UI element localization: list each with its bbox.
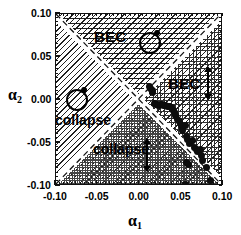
label-collapse-left: collapse xyxy=(55,113,111,127)
right-minor-tick xyxy=(219,60,222,61)
y-tick xyxy=(55,184,60,185)
top-minor-tick xyxy=(100,13,101,16)
x-tick-label: 0.05 xyxy=(170,190,190,202)
x-minor-tick xyxy=(80,182,81,185)
y-minor-tick xyxy=(55,163,58,164)
circle-cusp xyxy=(153,29,160,36)
y-minor-tick xyxy=(55,107,58,108)
right-minor-tick xyxy=(219,86,222,87)
y-minor-tick xyxy=(55,17,58,18)
top-minor-tick xyxy=(117,13,118,16)
right-minor-tick xyxy=(219,133,222,134)
top-minor-tick xyxy=(59,13,60,16)
y-minor-tick xyxy=(55,90,58,91)
y-minor-tick xyxy=(55,51,58,52)
top-minor-tick xyxy=(88,13,89,16)
right-minor-tick xyxy=(219,25,222,26)
top-minor-tick xyxy=(63,13,64,16)
right-minor-tick xyxy=(219,172,222,173)
right-minor-tick xyxy=(219,17,222,18)
circle-cusp xyxy=(80,86,87,93)
top-minor-tick xyxy=(188,13,189,16)
right-minor-tick xyxy=(219,21,222,22)
y-tick xyxy=(55,98,60,99)
right-minor-tick xyxy=(219,56,222,57)
x-minor-tick xyxy=(167,182,168,185)
x-axis-title: α1 xyxy=(128,212,142,231)
x-minor-tick xyxy=(67,182,68,185)
y-minor-tick xyxy=(55,81,58,82)
top-minor-tick xyxy=(96,13,97,16)
right-minor-tick xyxy=(219,34,222,35)
y-minor-tick xyxy=(55,137,58,138)
arrow-head-down xyxy=(143,166,151,172)
arrow-shaft xyxy=(207,70,209,96)
y-tick-label: -0.05 xyxy=(27,136,51,148)
top-minor-tick xyxy=(130,13,131,16)
y-minor-tick xyxy=(55,56,58,57)
right-minor-tick xyxy=(219,77,222,78)
y-minor-tick xyxy=(55,21,58,22)
y-tick-label: 0.10 xyxy=(31,7,51,19)
y-axis-title: α2 xyxy=(8,86,22,105)
right-minor-tick xyxy=(219,30,222,31)
right-minor-tick xyxy=(219,94,222,95)
y-minor-tick xyxy=(55,34,58,35)
x-minor-tick xyxy=(75,182,76,185)
x-minor-tick xyxy=(63,182,64,185)
y-minor-tick xyxy=(55,124,58,125)
right-minor-tick xyxy=(219,51,222,52)
right-minor-tick xyxy=(219,163,222,164)
top-minor-tick xyxy=(205,13,206,16)
y-minor-tick xyxy=(55,47,58,48)
x-tick xyxy=(138,180,139,185)
x-minor-tick xyxy=(159,182,160,185)
x-axis-title-subscript: 1 xyxy=(137,220,142,231)
top-minor-tick xyxy=(176,13,177,16)
arrow-shaft xyxy=(146,142,148,168)
top-minor-tick xyxy=(113,13,114,16)
y-minor-tick xyxy=(55,25,58,26)
y-axis-title-symbol: α xyxy=(8,86,17,103)
double-headed-vertical-arrow-icon xyxy=(141,138,153,172)
top-minor-tick xyxy=(167,13,168,16)
x-minor-tick xyxy=(88,182,89,185)
right-minor-tick xyxy=(219,64,222,65)
top-minor-tick xyxy=(121,13,122,16)
phase-diagram-figure: BEC BEC collapse collapse -0.10-0.050.00… xyxy=(0,0,241,235)
right-minor-tick xyxy=(219,124,222,125)
top-minor-tick xyxy=(155,13,156,16)
y-minor-tick xyxy=(55,103,58,104)
y-minor-tick xyxy=(55,150,58,151)
top-minor-tick xyxy=(171,13,172,16)
right-minor-tick xyxy=(219,47,222,48)
y-minor-tick xyxy=(55,94,58,95)
x-minor-tick xyxy=(84,182,85,185)
x-minor-tick xyxy=(171,182,172,185)
x-minor-tick xyxy=(192,182,193,185)
x-minor-tick xyxy=(134,182,135,185)
y-minor-tick xyxy=(55,111,58,112)
top-minor-tick xyxy=(125,13,126,16)
right-minor-tick xyxy=(219,159,222,160)
x-minor-tick xyxy=(71,182,72,185)
x-minor-tick xyxy=(105,182,106,185)
double-headed-vertical-arrow-icon xyxy=(202,66,214,100)
top-minor-tick xyxy=(146,13,147,16)
x-minor-tick xyxy=(188,182,189,185)
top-minor-tick xyxy=(138,13,139,16)
x-tick xyxy=(96,180,97,185)
x-minor-tick xyxy=(130,182,131,185)
x-axis-title-symbol: α xyxy=(128,212,137,229)
y-minor-tick xyxy=(55,180,58,181)
top-minor-tick xyxy=(192,13,193,16)
circle-with-cusp-icon xyxy=(139,32,161,54)
x-minor-tick xyxy=(113,182,114,185)
right-minor-tick xyxy=(219,129,222,130)
x-minor-tick xyxy=(125,182,126,185)
right-minor-tick xyxy=(219,137,222,138)
top-minor-tick xyxy=(209,13,210,16)
top-minor-tick xyxy=(55,13,56,16)
top-minor-tick xyxy=(71,13,72,16)
y-tick-label: 0.05 xyxy=(31,50,51,62)
